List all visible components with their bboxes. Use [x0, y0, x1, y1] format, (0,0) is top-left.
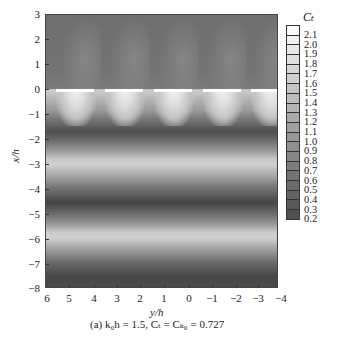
y-tick-label: −8 [0, 283, 40, 294]
x-tick-label: −4 [271, 292, 291, 304]
y-tick-label: 0 [0, 84, 40, 95]
wake-lobe [159, 15, 199, 90]
wake-lobe [207, 15, 247, 90]
high-ct-region [203, 90, 243, 126]
barrier-segment [251, 89, 278, 92]
high-ct-region [56, 90, 96, 126]
x-tick-mark [140, 284, 141, 288]
y-tick-label: 2 [0, 34, 40, 45]
high-ct-region [251, 90, 278, 126]
x-tick-label: 3 [107, 292, 127, 304]
colorbar-title: Cₜ [303, 10, 314, 25]
y-tick-label: −6 [0, 234, 40, 245]
x-tick-mark [164, 284, 165, 288]
contour-plot-area [45, 14, 278, 288]
barrier-segment [105, 89, 143, 92]
y-tick-mark [45, 39, 49, 40]
y-tick-mark [45, 114, 49, 115]
x-tick-mark [117, 284, 118, 288]
wake-lobe [61, 15, 101, 90]
colorbar-label: 0.2 [304, 214, 317, 224]
y-tick-mark [45, 214, 49, 215]
y-axis-label: x/h [9, 149, 21, 162]
x-tick-mark [94, 284, 95, 288]
y-tick-label: −5 [0, 209, 40, 220]
wake-lobe [110, 15, 150, 90]
x-tick-mark [212, 284, 213, 288]
x-tick-label: −3 [248, 292, 268, 304]
x-tick-mark [258, 284, 259, 288]
barrier-segment [154, 89, 192, 92]
x-tick-label: −1 [202, 292, 222, 304]
x-tick-label: −2 [226, 292, 246, 304]
colorbar [286, 25, 300, 220]
y-tick-label: −4 [0, 184, 40, 195]
x-tick-label: 4 [84, 292, 104, 304]
barrier-segment [56, 89, 94, 92]
x-tick-label: 6 [37, 292, 57, 304]
y-tick-mark [45, 164, 49, 165]
wake-lobe [254, 15, 278, 90]
x-tick-mark [69, 284, 70, 288]
y-tick-label: 1 [0, 59, 40, 70]
y-tick-mark [45, 139, 49, 140]
y-tick-mark [45, 189, 49, 190]
x-axis-label: y/h [150, 306, 163, 318]
x-tick-label: 2 [130, 292, 150, 304]
y-tick-label: −7 [0, 259, 40, 270]
y-tick-mark [45, 264, 49, 265]
x-tick-mark [189, 284, 190, 288]
y-tick-label: −2 [0, 134, 40, 145]
x-tick-label: 1 [154, 292, 174, 304]
barrier-segment [203, 89, 241, 92]
high-ct-region [154, 90, 194, 126]
y-tick-mark [45, 89, 49, 90]
x-tick-mark [236, 284, 237, 288]
y-tick-label: −1 [0, 109, 40, 120]
y-tick-label: 3 [0, 9, 40, 20]
y-tick-mark [45, 64, 49, 65]
figure-caption: (a) k₀h = 1.5, Cₜ = Cₖ₀ = 0.727 [90, 318, 224, 331]
x-tick-label: 0 [179, 292, 199, 304]
high-ct-region [105, 90, 145, 126]
y-tick-mark [45, 239, 49, 240]
x-tick-label: 5 [59, 292, 79, 304]
